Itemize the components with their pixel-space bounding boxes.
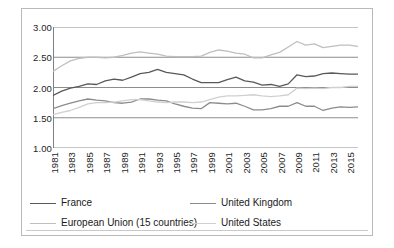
legend-swatch-icon [30, 203, 56, 204]
x-axis-tick-label: 2003 [241, 152, 252, 174]
legend-item-united-states[interactable]: United States [190, 218, 366, 228]
legend-item-united-kingdom[interactable]: United Kingdom [190, 198, 366, 208]
x-axis-tick-label: 2007 [276, 152, 287, 174]
x-axis-tick-label: 1985 [84, 152, 95, 174]
x-axis-tick-label: 2011 [310, 152, 321, 173]
x-axis-tick-label: 1997 [188, 152, 199, 174]
x-axis-tick-label: 1991 [136, 152, 147, 174]
legend-item-label: European Union (15 countries) [61, 218, 197, 228]
series-line-european-union-15-countries [53, 42, 358, 72]
x-axis-tick-label: 1999 [206, 152, 217, 174]
legend-item-label: United Kingdom [221, 198, 292, 208]
x-axis-tick-label: 1995 [171, 152, 182, 174]
x-axis-tick-label: 2015 [345, 152, 356, 174]
y-axis-tick-label: 1.50 [33, 112, 52, 123]
x-axis-labels: 1981198319851987198919911993199519971999… [53, 152, 358, 192]
x-axis-tick-label: 2009 [293, 152, 304, 174]
legend-swatch-icon [190, 203, 216, 204]
legend-swatch-icon [30, 223, 56, 224]
x-axis-tick-label: 1981 [49, 152, 60, 174]
legend-item-label: United States [221, 218, 281, 228]
y-axis-tick-label: 2.50 [33, 52, 52, 63]
x-axis-tick-label: 1987 [101, 152, 112, 174]
x-axis-tick-label: 2013 [328, 152, 339, 174]
legend-item-france[interactable]: France [30, 198, 190, 208]
legend-divider [26, 230, 368, 231]
x-axis-tick-label: 2005 [258, 152, 269, 174]
x-axis-tick-label: 2001 [223, 152, 234, 174]
chart-legend: FranceUnited KingdomEuropean Union (15 c… [30, 193, 366, 233]
x-axis-tick-label: 1993 [154, 152, 165, 174]
x-axis-tick-label: 1989 [119, 152, 130, 174]
legend-item-european-union-15-countries[interactable]: European Union (15 countries) [30, 218, 190, 228]
plot-area [53, 27, 358, 148]
plot-svg [53, 27, 358, 148]
legend-item-label: France [61, 198, 92, 208]
y-axis-tick-label: 3.00 [33, 22, 52, 33]
x-axis-tick-label: 1983 [66, 152, 77, 174]
line-chart: 3.002.502.001.501.00 1981198319851987198… [0, 0, 394, 248]
series-line-france [53, 69, 358, 95]
legend-swatch-icon [190, 223, 216, 224]
y-axis-tick-label: 2.00 [33, 82, 52, 93]
